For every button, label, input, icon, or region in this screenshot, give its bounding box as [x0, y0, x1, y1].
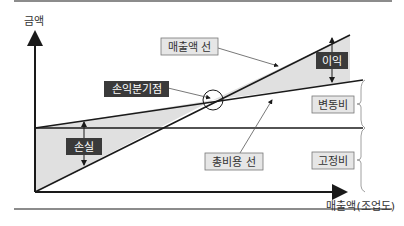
profit-label: 이익 — [322, 55, 342, 68]
variable-cost-label: 변동비 — [318, 99, 348, 112]
total-cost-pointer — [240, 100, 272, 153]
sales-line — [35, 35, 350, 192]
bep-diagram: 매출액 선 손익분기점 이익 손실 변동비 총비용 선 고정비 금액 매출액(조… — [0, 0, 404, 226]
sales-pointer — [218, 48, 278, 66]
y-axis-label: 금액 — [24, 15, 44, 28]
fixed-cost-brace — [357, 128, 365, 192]
bep-label: 손익분기점 — [112, 83, 162, 96]
bep-pointer — [168, 88, 210, 98]
sales-line-label: 매출액 선 — [168, 41, 212, 54]
variable-cost-brace — [357, 80, 365, 128]
x-axis-label: 매출액(조업도) — [326, 200, 395, 213]
total-cost-label: 총비용 선 — [212, 156, 256, 169]
fixed-cost-label: 고정비 — [318, 155, 348, 168]
loss-label: 손실 — [74, 141, 94, 154]
